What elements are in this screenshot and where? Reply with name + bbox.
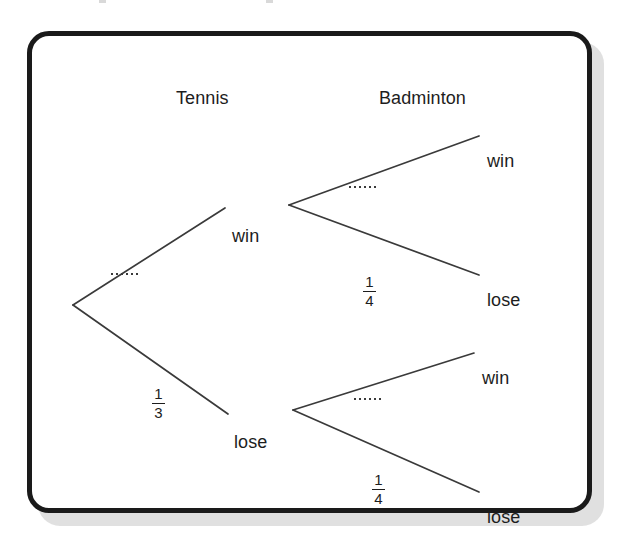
node-tennis-lose: lose (234, 432, 267, 453)
edge-label-badminton-lose-after-win-fraction: 1 4 (363, 274, 376, 308)
fraction-denominator: 3 (153, 405, 163, 421)
column-heading-badminton: Badminton (379, 88, 466, 109)
figure-page: Tennis Badminton win lose win lose win l… (0, 0, 622, 549)
tree-branch-lines (27, 31, 592, 513)
tree-canvas: Tennis Badminton win lose win lose win l… (27, 31, 592, 513)
edge-label-tennis-lose-fraction: 1 3 (152, 386, 165, 420)
fraction-numerator: 1 (153, 386, 163, 402)
node-badminton-lose-after-win: lose (487, 290, 520, 311)
edge-label-tennis-win-dots (111, 273, 138, 275)
node-tennis-win: win (232, 226, 259, 247)
fraction-denominator: 4 (373, 491, 383, 507)
branch-tennis-lose-to-win (293, 353, 474, 410)
branch-tennis-lose-to-lose (293, 410, 479, 492)
node-badminton-lose-after-lose: lose (487, 507, 520, 528)
scan-artifact-right (266, 0, 273, 3)
edge-label-badminton-win-after-win-dots (349, 186, 376, 188)
edge-label-badminton-win-after-lose-dots (354, 398, 381, 400)
scan-artifact-left (99, 0, 106, 3)
column-heading-tennis: Tennis (176, 88, 229, 109)
fraction-numerator: 1 (373, 472, 383, 488)
node-badminton-win-after-win: win (487, 151, 514, 172)
branch-root-to-tennis-win (73, 208, 225, 305)
fraction-denominator: 4 (364, 293, 374, 309)
branch-root-to-tennis-lose (73, 305, 228, 414)
edge-label-badminton-lose-after-lose-fraction: 1 4 (372, 472, 385, 506)
branch-tennis-win-to-lose (289, 205, 479, 275)
branch-tennis-win-to-win (289, 136, 479, 205)
fraction-numerator: 1 (364, 274, 374, 290)
node-badminton-win-after-lose: win (482, 368, 509, 389)
